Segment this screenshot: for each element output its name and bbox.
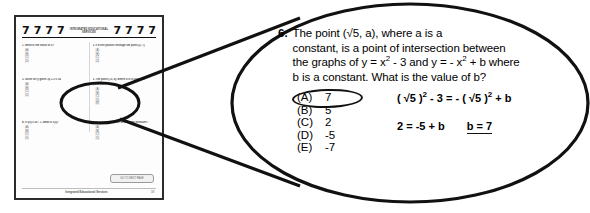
footer-page-number: 18 xyxy=(151,191,156,194)
header-right-seven-marks: 7 7 7 7 xyxy=(113,25,156,36)
question-stem: 1. What is the value of x? xyxy=(22,44,86,47)
worksheet-question-block-highlighted: 6. The point (√5, a), where a is a const… xyxy=(93,78,157,106)
question-extra-line: y = x² - 3 xyxy=(93,83,157,86)
question-stem: 5. In the figure above, what is the meas… xyxy=(93,121,157,124)
worksheet-question-block: 2. If a line passes through the point (2… xyxy=(93,44,157,63)
worksheet-header: 7 7 7 7 INTEGRATED EDUCATIONAL SERVICES … xyxy=(22,22,156,38)
header-mark: 7 xyxy=(45,25,53,36)
choice-value: -7 xyxy=(325,141,335,154)
worksheet-bottom-area: GO TO NEXT PAGE xyxy=(22,174,156,183)
worksheet-question-block: 1. What is the value of x? (A) (B) (C) (… xyxy=(22,44,86,63)
work-equation-line-2: 2 = -5 + b xyxy=(397,120,445,134)
question-text: The point (√5, a), where a is a constant… xyxy=(293,26,520,84)
work-equation-line-2-row: 2 = -5 + b b = 7 xyxy=(397,120,556,134)
question-line-1: The point (√5, a), where a is a xyxy=(293,27,443,39)
header-mark: 7 xyxy=(57,25,65,36)
answer-choice-d[interactable]: (D) -5 xyxy=(297,129,377,142)
work-line-1-part-c: + b xyxy=(492,92,511,104)
question-line-2: constant, is a point of intersection bet… xyxy=(293,42,506,54)
answer-choice-c[interactable]: (C) 2 xyxy=(297,116,377,129)
work-equation-line-1: ( √5 )2 - 3 = - ( √5 )2 + b xyxy=(397,92,556,105)
header-mark: 7 xyxy=(113,25,121,36)
question-stem: 6. The point (√5, a), where a is a const… xyxy=(93,78,157,81)
question-choice[interactable]: (D) xyxy=(22,60,86,64)
work-line-1-part-b: - 3 = - ( √5 ) xyxy=(427,92,488,104)
footer-credit: Integrated Educational Services xyxy=(22,191,151,194)
question-choice[interactable]: (D) xyxy=(93,137,157,141)
question-line-4: b is a constant. What is the value of b? xyxy=(293,71,487,83)
answer-choice-list: (A) 7 (B) 5 (C) 2 (D) -5 (E) -7 xyxy=(297,91,377,154)
answers-and-work-row: (A) 7 (B) 5 (C) 2 (D) -5 (E) -7 ( √5 )2 xyxy=(278,91,556,154)
question-choice[interactable]: (E) xyxy=(93,102,157,106)
question-stem: 4. If f(x) = 2x - 1, what is f(3)? xyxy=(22,121,86,124)
question-line-3-part-c: + b where xyxy=(467,56,520,68)
worksheet-page-scan: 7 7 7 7 INTEGRATED EDUCATIONAL SERVICES … xyxy=(14,15,164,200)
header-left-seven-marks: 7 7 7 7 xyxy=(22,25,65,36)
go-to-next-page-button[interactable]: GO TO NEXT PAGE xyxy=(110,174,154,183)
work-line-1-part-a: ( √5 ) xyxy=(397,92,423,104)
choice-letter: (E) xyxy=(297,141,325,154)
question-choice[interactable]: (D) xyxy=(22,137,86,141)
magnified-question-panel: 6. The point (√5, a), where a is a const… xyxy=(278,26,556,154)
header-mark: 7 xyxy=(125,25,133,36)
choice-letter: (C) xyxy=(297,116,325,129)
question-stem: 3. Solve for y given 3y + 5 = 14 xyxy=(22,78,86,81)
work-final-answer: b = 7 xyxy=(467,120,492,134)
magnified-question-row: 6. The point (√5, a), where a is a const… xyxy=(278,26,556,84)
worksheet-page-content: 7 7 7 7 INTEGRATED EDUCATIONAL SERVICES … xyxy=(22,22,156,194)
question-choice[interactable]: (D) xyxy=(22,94,86,98)
answer-choice-e[interactable]: (E) -7 xyxy=(297,141,377,154)
header-mark: 7 xyxy=(22,25,30,36)
worksheet-footer: Integrated Educational Services 18 xyxy=(22,188,156,194)
question-line-3-part-b: - 3 and y = - x xyxy=(390,56,462,68)
question-stem: 2. If a line passes through the point (2… xyxy=(93,44,157,47)
header-mark: 7 xyxy=(148,25,156,36)
question-line-3-part-a: the graphs of y = x xyxy=(293,56,386,68)
worksheet-question-grid: 1. What is the value of x? (A) (B) (C) (… xyxy=(22,44,156,140)
worksheet-question-block: 5. In the figure above, what is the meas… xyxy=(93,121,157,140)
header-mark: 7 xyxy=(137,25,145,36)
choice-letter: (D) xyxy=(297,129,325,142)
choice-value: 2 xyxy=(325,116,331,129)
header-mark: 7 xyxy=(34,25,42,36)
worksheet-question-block: 3. Solve for y given 3y + 5 = 14 (A) (B)… xyxy=(22,78,86,106)
choice-value: -5 xyxy=(325,129,335,142)
column-divider xyxy=(89,42,90,132)
worksheet-question-block: 4. If f(x) = 2x - 1, what is f(3)? (A) (… xyxy=(22,121,86,140)
question-number: 6. xyxy=(278,26,293,41)
question-choice[interactable]: (D) xyxy=(93,60,157,64)
worksheet-title: INTEGRATED EDUCATIONAL SERVICES xyxy=(65,28,114,36)
handwritten-work-area: ( √5 )2 - 3 = - ( √5 )2 + b 2 = -5 + b b… xyxy=(377,91,556,154)
